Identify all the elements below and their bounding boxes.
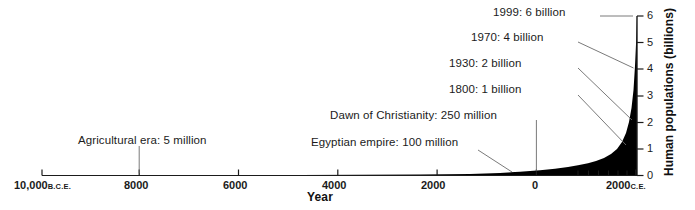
leader-1930	[578, 68, 632, 120]
y-tick-label-0: 0	[647, 169, 653, 181]
annotation-agricultural-era: Agricultural era: 5 million	[78, 134, 207, 146]
y-tick-label-5: 5	[647, 36, 653, 48]
annotation-dawn-of-christianity: Dawn of Christianity: 250 million	[330, 109, 497, 121]
leader-1970	[578, 42, 634, 68]
annotation-1930-2-billion: 1930: 2 billion	[449, 57, 521, 69]
y-tick-label-6: 6	[647, 9, 653, 21]
leader-1800	[578, 95, 626, 145]
y-tick-label-4: 4	[647, 62, 653, 74]
x-axis-title: Year	[0, 190, 640, 204]
annotation-leader-lines	[139, 16, 633, 173]
y-axis-title: Human populations (billions)	[662, 4, 680, 180]
population-area-curve	[42, 16, 637, 176]
annotation-1999-6-billion: 1999: 6 billion	[493, 6, 565, 18]
chart-canvas	[0, 0, 695, 210]
annotation-egyptian-empire: Egyptian empire: 100 million	[311, 136, 458, 148]
annotation-1970-4-billion: 1970: 4 billion	[471, 31, 543, 43]
y-tick-label-1: 1	[647, 142, 653, 154]
y-tick-label-2: 2	[647, 116, 653, 128]
y-tick-label-3: 3	[647, 89, 653, 101]
leader-egyptian	[478, 150, 512, 172]
annotation-1800-1-billion: 1800: 1 billion	[449, 83, 521, 95]
y-axis-ticks	[637, 16, 644, 176]
population-growth-chart: Agricultural era: 5 million Egyptian emp…	[0, 0, 695, 210]
